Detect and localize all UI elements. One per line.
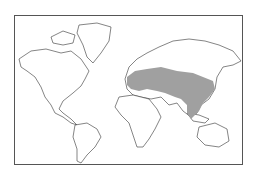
world-map (15, 16, 244, 166)
arctic-islands (51, 31, 75, 45)
africa (115, 95, 161, 147)
australia (197, 123, 229, 147)
map-frame (14, 15, 243, 165)
greenland (77, 23, 111, 63)
north-america (19, 49, 89, 125)
south-america (73, 123, 101, 163)
